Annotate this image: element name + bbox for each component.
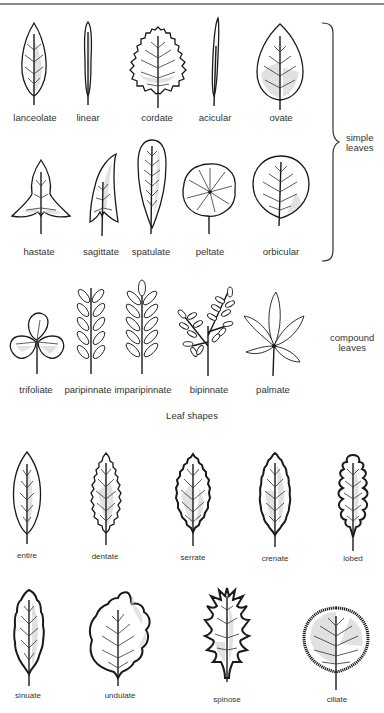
hastate-leaf-illustration [10, 158, 72, 234]
label-paripinnate: paripinnate [64, 384, 111, 395]
label-orbicular: orbicular [263, 246, 299, 257]
ciliate-leaf-illustration [300, 604, 372, 690]
palmate-leaf-illustration [240, 290, 306, 376]
figure-caption: Leaf shapes [166, 410, 218, 421]
label-lanceolate: lanceolate [13, 112, 56, 123]
label-sinuate: sinuate [15, 691, 41, 700]
label-dentate: dentate [92, 552, 119, 561]
paripinnate-leaf-illustration [74, 284, 108, 376]
label-acicular: acicular [199, 112, 232, 123]
label-entire: entire [17, 551, 37, 560]
peltate-leaf-illustration [181, 162, 237, 236]
crenate-leaf-illustration [257, 451, 293, 547]
spatulate-leaf-illustration [136, 138, 168, 236]
label-trifoliate: trifoliate [19, 384, 52, 395]
ovate-leaf-illustration [255, 22, 305, 110]
label-lobed: lobed [343, 554, 363, 563]
label-ciliate: ciliate [327, 695, 347, 704]
lobed-leaf-illustration [334, 453, 372, 551]
label-undulate: undulate [105, 691, 136, 700]
label-spatulate: spatulate [132, 246, 171, 257]
label-linear: linear [76, 112, 99, 123]
label-serrate: serrate [181, 553, 206, 562]
label-cordate: cordate [141, 112, 173, 123]
label-sagittate: sagittate [83, 246, 119, 257]
acicular-leaf-illustration [208, 16, 222, 108]
label-crenate: crenate [262, 554, 289, 563]
label-peltate: peltate [196, 246, 225, 257]
label-hastate: hastate [23, 246, 54, 257]
simple-leaves-label-line2: leaves [346, 143, 373, 153]
linear-leaf-illustration [81, 20, 95, 106]
bipinnate-leaf-illustration [174, 286, 238, 378]
label-imparipinnate: imparipinnate [114, 384, 171, 395]
imparipinnate-leaf-illustration [122, 280, 162, 376]
sagittate-leaf-illustration [86, 152, 120, 236]
compound-leaves-label: compound leaves [330, 333, 374, 353]
label-bipinnate: bipinnate [190, 384, 229, 395]
label-ovate: ovate [269, 112, 292, 123]
lanceolate-leaf-illustration [16, 20, 52, 106]
label-palmate: palmate [256, 384, 290, 395]
top-rule [0, 3, 384, 5]
spinose-leaf-illustration [203, 586, 251, 682]
entire-leaf-illustration [12, 450, 42, 544]
undulate-leaf-illustration [88, 588, 152, 686]
sinuate-leaf-illustration [12, 588, 46, 686]
orbicular-leaf-illustration [251, 154, 311, 232]
compound-leaves-label-line2: leaves [330, 343, 374, 353]
simple-leaves-brace [320, 22, 340, 266]
label-spinose: spinose [213, 695, 241, 704]
dentate-leaf-illustration [88, 451, 124, 545]
cordate-leaf-illustration [127, 24, 189, 108]
simple-leaves-label: simple leaves [346, 133, 373, 153]
trifoliate-leaf-illustration [8, 310, 66, 374]
serrate-leaf-illustration [173, 452, 213, 546]
